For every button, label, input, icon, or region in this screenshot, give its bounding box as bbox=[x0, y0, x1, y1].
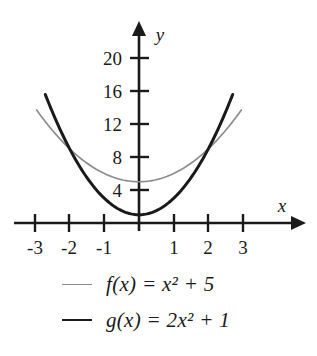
legend-swatch-f-icon bbox=[62, 284, 92, 285]
y-axis bbox=[132, 21, 146, 231]
legend: f(x) = x² + 5 g(x) = 2x² + 1 bbox=[0, 266, 317, 338]
legend-label-f: f(x) = x² + 5 bbox=[106, 274, 215, 295]
x-tick-label-2: 2 bbox=[203, 237, 213, 258]
x-axis bbox=[14, 216, 306, 230]
legend-label-g: g(x) = 2x² + 1 bbox=[106, 310, 230, 331]
y-tick-label-12: 12 bbox=[103, 114, 122, 135]
function-graph-figure: -3 -2 -1 1 2 3 4 8 12 16 20 x y f(x) = x… bbox=[0, 0, 317, 356]
legend-swatch-g-icon bbox=[62, 319, 92, 321]
legend-item-f: f(x) = x² + 5 bbox=[0, 266, 317, 302]
y-tick-label-4: 4 bbox=[113, 180, 123, 201]
x-tick-label-1: 1 bbox=[169, 237, 179, 258]
x-axis-label: x bbox=[277, 195, 287, 216]
x-tick-label--3: -3 bbox=[27, 237, 43, 258]
y-axis-label: y bbox=[154, 24, 165, 45]
x-tick-labels: -3 -2 -1 1 2 3 bbox=[27, 237, 248, 258]
x-tick-label-3: 3 bbox=[238, 237, 248, 258]
x-axis-arrow-icon bbox=[291, 216, 306, 230]
y-tick-label-16: 16 bbox=[103, 81, 122, 102]
legend-item-g: g(x) = 2x² + 1 bbox=[0, 302, 317, 338]
x-tick-label--1: -1 bbox=[96, 237, 112, 258]
x-tick-label--2: -2 bbox=[61, 237, 77, 258]
y-tick-label-8: 8 bbox=[113, 147, 123, 168]
y-tick-label-20: 20 bbox=[103, 48, 122, 69]
y-tick-labels: 4 8 12 16 20 bbox=[103, 48, 123, 201]
y-axis-arrow-icon bbox=[132, 21, 146, 36]
